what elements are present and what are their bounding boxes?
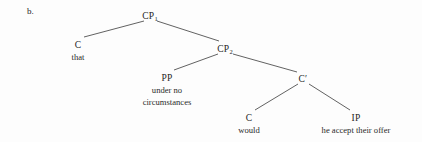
tree-node-c-that-label: C (72, 40, 85, 51)
tree-node-cp2: CP2 (217, 44, 233, 55)
tree-terminal-line-1: under no (143, 85, 192, 96)
edge-cbar-c (255, 84, 298, 110)
tree-terminal-that: that (72, 52, 85, 62)
tree-node-cbar: C′ (299, 74, 308, 85)
edge-cp2-pp (174, 54, 218, 70)
tree-terminal-would: would (238, 125, 259, 135)
tree-node-ip: IP he accept their offer (322, 113, 391, 135)
tree-node-cbar-label: C′ (299, 74, 308, 85)
syntax-tree-figure: b. CP1 C that CP2 PP under no circumstan… (0, 0, 422, 142)
edge-cp2-cbar (233, 54, 297, 72)
edge-cp1-c (84, 21, 144, 37)
tree-node-c-would: C would (238, 113, 259, 135)
tree-node-ip-label: IP (322, 113, 391, 124)
tree-terminal-he-accept-their-offer: he accept their offer (322, 125, 391, 135)
tree-terminal-line-2: circumstances (143, 97, 192, 108)
tree-node-pp: PP under no circumstances (143, 73, 192, 108)
tree-node-cp2-label: CP2 (217, 44, 233, 55)
tree-node-cp1: CP1 (142, 11, 158, 22)
edge-cp1-cp2 (157, 21, 219, 41)
tree-node-cp1-subscript: 1 (155, 15, 159, 22)
edge-cbar-ip (309, 84, 350, 110)
tree-node-cp1-label: CP1 (142, 11, 158, 22)
tree-terminal-under-no-circumstances: under no circumstances (143, 85, 192, 108)
tree-node-cp2-subscript: 2 (230, 48, 234, 55)
tree-node-c-that: C that (72, 40, 85, 62)
tree-node-c-would-label: C (238, 113, 259, 124)
tree-node-pp-label: PP (143, 73, 192, 84)
